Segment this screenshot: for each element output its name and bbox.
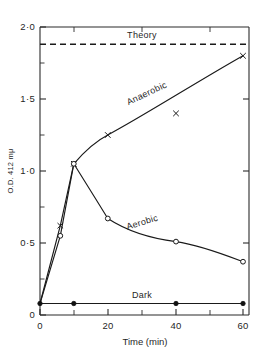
aerobic-point-10	[71, 161, 76, 166]
y-ticklabel-15: 1·5	[20, 93, 35, 104]
dark-label: Dark	[132, 290, 152, 300]
aerobic-point-40	[174, 239, 179, 244]
aerobic-point-20	[105, 216, 110, 221]
y-ticklabel-10: 1·0	[20, 165, 35, 176]
theory-label: Theory	[127, 30, 157, 40]
chart-figure: 0 0·5 1·0 1·5 2·0 O.D. 412 mμ 0 20	[0, 0, 269, 350]
y-ticklabel-20: 2·0	[20, 21, 35, 32]
dark-point-10	[72, 301, 76, 305]
x-ticklabel-20: 20	[102, 320, 113, 331]
dark-point-60	[241, 301, 245, 305]
aerobic-point-60	[241, 259, 246, 264]
x-ticklabel-40: 40	[170, 320, 181, 331]
x-ticklabel-0: 0	[37, 320, 43, 331]
dark-point-0	[38, 301, 42, 305]
aerobic-point-6	[58, 233, 63, 238]
dark-point-40	[174, 301, 178, 305]
y-ticklabel-0: 0	[29, 309, 35, 320]
y-axis-title: O.D. 412 mμ	[6, 149, 15, 194]
x-axis-title: Time (min)	[122, 336, 167, 347]
y-ticklabel-05: 0·5	[20, 237, 35, 248]
chart-svg: 0 0·5 1·0 1·5 2·0 O.D. 412 mμ 0 20	[0, 0, 269, 350]
x-ticklabel-60: 60	[237, 320, 248, 331]
